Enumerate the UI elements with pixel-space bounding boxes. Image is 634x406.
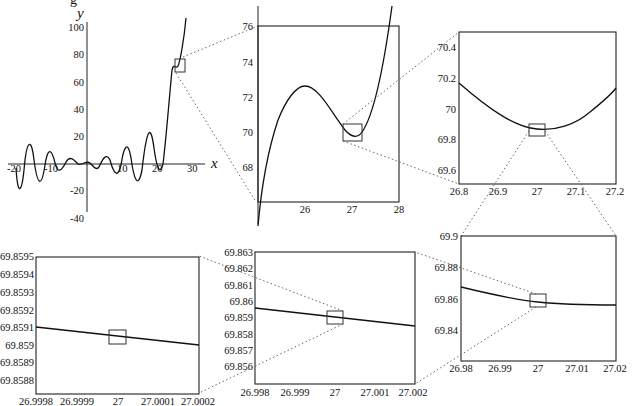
connector-line [199, 324, 343, 393]
svg-text:27.0001: 27.0001 [141, 396, 175, 406]
zoom2-plot: 70.4 70.2 70 69.8 69.6 26.8 26.9 27 27.1… [438, 32, 625, 197]
svg-text:69.8594: 69.8594 [0, 269, 35, 280]
svg-text:72: 72 [243, 92, 254, 103]
zoom3-frame [461, 236, 616, 361]
svg-text:27: 27 [532, 186, 543, 197]
caption-fragment: g [70, 0, 77, 7]
svg-text:26: 26 [300, 204, 311, 215]
zoom4-plot: 69.863 69.862 69.861 69.86 69.859 69.858… [224, 247, 427, 398]
zoom3-plot: 69.9 69.88 69.86 69.84 26.98 26.99 27 27… [434, 231, 626, 374]
svg-text:27.01: 27.01 [565, 363, 589, 374]
svg-text:26.999: 26.999 [281, 387, 310, 398]
svg-text:70: 70 [446, 104, 457, 115]
svg-text:76: 76 [243, 21, 254, 32]
svg-text:69.8593: 69.8593 [0, 287, 34, 298]
svg-text:60: 60 [74, 77, 85, 88]
svg-text:27.002: 27.002 [399, 387, 428, 398]
zoom-box-2 [343, 124, 362, 141]
y-axis-label: y [75, 5, 84, 21]
zoom1-frame [258, 26, 399, 202]
svg-text:69.8592: 69.8592 [0, 305, 34, 316]
svg-text:27: 27 [347, 204, 358, 215]
zoom1-curve [258, 6, 392, 226]
svg-text:69.8588: 69.8588 [0, 375, 34, 386]
zoom-box-4 [530, 294, 546, 307]
svg-text:70.4: 70.4 [438, 42, 457, 53]
zoom5-frame [36, 257, 199, 394]
connector-line [415, 307, 536, 384]
svg-text:-20: -20 [70, 185, 84, 196]
zoom5-plot: 69.8595 69.8594 69.8593 69.8592 69.8591 … [0, 251, 215, 406]
svg-text:40: 40 [74, 104, 85, 115]
svg-text:27.001: 27.001 [361, 387, 390, 398]
svg-text:69.88: 69.88 [434, 262, 458, 273]
svg-text:69.8589: 69.8589 [0, 357, 34, 368]
svg-text:69.859: 69.859 [5, 340, 34, 351]
svg-text:26.9: 26.9 [489, 186, 507, 197]
svg-text:69.6: 69.6 [438, 165, 456, 176]
svg-text:69.9: 69.9 [440, 231, 458, 242]
zoom2-curve [459, 83, 616, 129]
svg-text:69.858: 69.858 [224, 329, 253, 340]
svg-text:30: 30 [187, 163, 198, 174]
svg-text:28: 28 [394, 204, 405, 215]
zoom2-frame [459, 32, 616, 184]
svg-text:-20: -20 [7, 163, 21, 174]
zoom-chart-figure: g y x -20 -10 10 20 30 100 80 60 40 20 -… [0, 0, 634, 406]
zoom1-plot: 76 74 72 70 68 26 27 28 [243, 6, 405, 226]
overview-plot: y x -20 -10 10 20 30 100 80 60 40 20 -20… [7, 5, 218, 224]
svg-text:-40: -40 [70, 213, 84, 224]
svg-text:69.8: 69.8 [438, 134, 456, 145]
svg-text:69.862: 69.862 [224, 263, 253, 274]
svg-text:26.8: 26.8 [450, 186, 468, 197]
svg-text:70.2: 70.2 [438, 73, 456, 84]
svg-text:26.99: 26.99 [488, 363, 512, 374]
svg-text:27: 27 [533, 363, 544, 374]
x-axis-label: x [210, 155, 218, 171]
svg-text:69.856: 69.856 [224, 361, 253, 372]
svg-text:80: 80 [74, 49, 85, 60]
zoom4-frame [255, 252, 415, 384]
connector-line [343, 141, 459, 184]
svg-text:26.998: 26.998 [241, 387, 270, 398]
svg-text:69.863: 69.863 [224, 247, 253, 258]
svg-text:20: 20 [74, 131, 85, 142]
svg-text:69.861: 69.861 [224, 280, 253, 291]
svg-text:26.9999: 26.9999 [60, 396, 94, 406]
svg-text:69.8595: 69.8595 [0, 251, 34, 262]
zoom3-curve [461, 287, 616, 305]
y-tick-labels: 100 80 60 40 20 -20 -40 [68, 22, 84, 224]
svg-text:70: 70 [243, 127, 254, 138]
svg-text:69.84: 69.84 [434, 325, 458, 336]
svg-text:27.1: 27.1 [567, 186, 585, 197]
svg-text:27: 27 [113, 396, 124, 406]
svg-text:27.0002: 27.0002 [181, 396, 215, 406]
connector-line [199, 256, 343, 311]
svg-text:26.9998: 26.9998 [19, 396, 53, 406]
svg-text:69.8591: 69.8591 [0, 322, 34, 333]
svg-text:74: 74 [243, 57, 254, 68]
connector-line [415, 252, 536, 294]
svg-text:100: 100 [68, 22, 84, 33]
svg-text:69.86: 69.86 [229, 296, 253, 307]
svg-text:69.86: 69.86 [434, 294, 458, 305]
svg-text:68: 68 [243, 162, 254, 173]
svg-text:27.2: 27.2 [606, 186, 624, 197]
svg-text:69.857: 69.857 [224, 345, 253, 356]
svg-text:27.02: 27.02 [603, 363, 627, 374]
svg-text:27: 27 [330, 387, 341, 398]
svg-text:26.98: 26.98 [449, 363, 473, 374]
svg-text:69.859: 69.859 [224, 312, 253, 323]
